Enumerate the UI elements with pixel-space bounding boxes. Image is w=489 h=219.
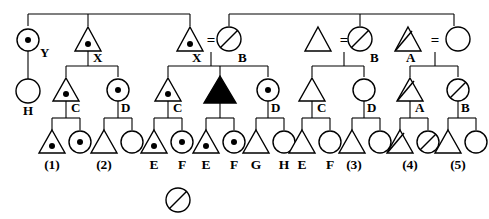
individual-g3-3[interactable] bbox=[91, 130, 117, 153]
individual-g3-13[interactable] bbox=[339, 130, 365, 153]
individual-g3-6[interactable] bbox=[171, 131, 193, 153]
label-g1-x1: X bbox=[93, 50, 103, 65]
union-symbol-tri-b: = bbox=[340, 32, 349, 48]
bottom-label-2: (2) bbox=[96, 157, 112, 172]
label-g1-y: Y bbox=[40, 45, 50, 60]
union-symbol-a-circ: = bbox=[431, 32, 440, 48]
label-g1-b1: B bbox=[238, 50, 247, 65]
bottom-label-10: F bbox=[326, 157, 334, 172]
bottom-labels-group: (1) (2) E F E F G H E F (3) (4) (5) bbox=[44, 157, 466, 172]
bottom-label-6: F bbox=[230, 157, 238, 172]
label-g1-b2: B bbox=[370, 50, 379, 65]
individual-g1-a[interactable] bbox=[395, 27, 421, 51]
pedigree-chart: = = = bbox=[0, 0, 489, 219]
label-g2-c3: C bbox=[317, 100, 326, 115]
label-g1-x2: X bbox=[192, 50, 202, 65]
bottom-label-3: E bbox=[149, 157, 158, 172]
bottom-label-5: E bbox=[201, 157, 210, 172]
label-g2-b: B bbox=[461, 100, 470, 115]
individual-g1-b2[interactable] bbox=[348, 27, 372, 51]
individual-g3-8[interactable] bbox=[223, 131, 245, 153]
label-g1-a: A bbox=[406, 50, 416, 65]
individual-g3-18[interactable] bbox=[465, 131, 487, 153]
individual-g2-c1[interactable] bbox=[53, 78, 79, 101]
legend-circle-slash-icon[interactable] bbox=[166, 188, 190, 212]
individual-g3-5[interactable] bbox=[141, 130, 167, 153]
generation-1-group: = = = bbox=[17, 27, 470, 51]
individual-g2-c3[interactable] bbox=[299, 78, 325, 101]
label-g2-c2: C bbox=[173, 100, 182, 115]
individual-g2-h[interactable] bbox=[16, 79, 40, 103]
descent-lines-g2-g3 bbox=[52, 101, 476, 130]
union-symbol-x-b: = bbox=[207, 32, 216, 48]
label-g2-d2: D bbox=[271, 100, 280, 115]
individual-g2-b[interactable] bbox=[447, 79, 469, 101]
label-g2-h: H bbox=[23, 103, 33, 118]
pedigree-canvas: = = = bbox=[0, 0, 489, 219]
label-g2-d1: D bbox=[121, 100, 130, 115]
bottom-label-13: (5) bbox=[450, 157, 466, 172]
bottom-label-1: (1) bbox=[44, 157, 60, 172]
generation-2-group bbox=[16, 76, 469, 103]
individual-g1-x2[interactable] bbox=[177, 27, 203, 51]
individual-g3-12[interactable] bbox=[319, 131, 341, 153]
individual-g2-affected-male[interactable] bbox=[204, 76, 236, 103]
individual-g3-9[interactable] bbox=[243, 130, 269, 153]
individual-g2-a[interactable] bbox=[397, 78, 423, 101]
individual-g1-b1[interactable] bbox=[217, 27, 241, 51]
bottom-label-8: H bbox=[279, 157, 290, 172]
individual-g3-16[interactable] bbox=[417, 131, 439, 153]
sibship-lines-generation-1 bbox=[28, 14, 454, 26]
individual-g3-1[interactable] bbox=[39, 130, 65, 153]
bottom-label-11: (3) bbox=[346, 157, 362, 172]
inline-labels-group: Y X X B B A H C D C D C D A B bbox=[23, 45, 470, 118]
bottom-label-9: E bbox=[297, 157, 306, 172]
individual-g2-d2[interactable] bbox=[257, 79, 279, 101]
individual-g1-y[interactable] bbox=[17, 29, 39, 51]
individual-g3-7[interactable] bbox=[193, 130, 219, 153]
label-g2-c1: C bbox=[71, 100, 80, 115]
individual-g3-2[interactable] bbox=[69, 131, 91, 153]
individual-g2-d3[interactable] bbox=[353, 79, 375, 101]
individual-g3-4[interactable] bbox=[121, 131, 143, 153]
individual-g1-x1[interactable] bbox=[75, 27, 101, 51]
individual-g2-d1[interactable] bbox=[107, 79, 129, 101]
bottom-label-12: (4) bbox=[402, 157, 418, 172]
label-g2-a: A bbox=[415, 100, 425, 115]
label-g2-d3: D bbox=[367, 100, 376, 115]
individual-g1-circle-plain[interactable] bbox=[446, 27, 470, 51]
bottom-label-7: G bbox=[251, 157, 262, 172]
individual-g2-c2[interactable] bbox=[155, 78, 181, 101]
bottom-label-4: F bbox=[178, 157, 186, 172]
generation-3-group bbox=[39, 130, 487, 153]
individual-g3-14[interactable] bbox=[369, 131, 391, 153]
individual-g1-triangle-plain[interactable] bbox=[305, 27, 331, 51]
